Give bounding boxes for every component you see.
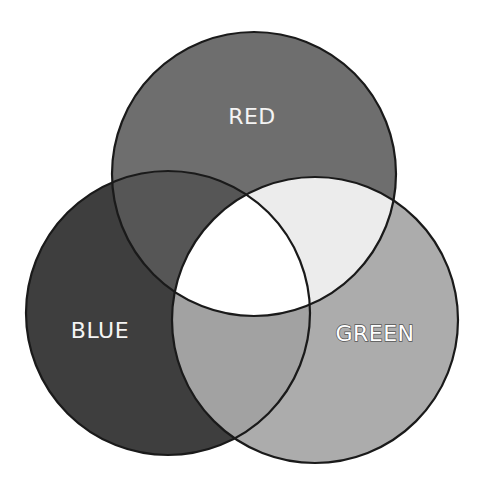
label-red: RED — [228, 104, 276, 129]
label-green: GREEN — [335, 321, 414, 346]
venn-diagram: RED BLUE GREEN — [0, 0, 482, 495]
label-blue: BLUE — [71, 318, 129, 343]
venn-svg: RED BLUE GREEN — [0, 0, 482, 495]
